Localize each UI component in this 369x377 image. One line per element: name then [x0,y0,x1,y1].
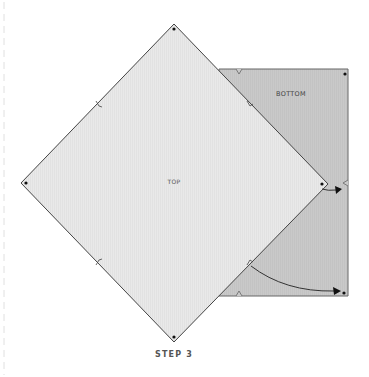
corner-dot [172,27,175,30]
corner-dot [342,291,345,294]
top-label: TOP [167,178,181,185]
corner-dot [343,72,346,75]
corner-dot [24,181,27,184]
diagram-canvas: BOTTOM TOP STEP 3 [0,0,369,377]
step-label: STEP 3 [0,350,348,359]
corner-dot [172,335,175,338]
quilt-fold-diagram: BOTTOM TOP [0,0,369,377]
corner-dot [320,182,323,185]
bottom-label: BOTTOM [276,90,306,98]
